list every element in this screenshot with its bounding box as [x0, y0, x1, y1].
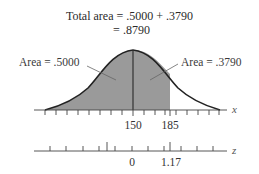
x-axis-label: x — [231, 103, 237, 115]
x-tick-185: 185 — [161, 119, 179, 131]
z-axis — [34, 142, 227, 151]
normal-curve-diagram: x 150 185 z 0 1.17 — [0, 0, 259, 174]
z-axis-label: z — [231, 144, 237, 156]
x-tick-150: 150 — [124, 119, 142, 131]
x-axis — [34, 110, 227, 116]
z-tick-0: 0 — [129, 156, 135, 168]
z-tick-1-17: 1.17 — [161, 156, 181, 168]
